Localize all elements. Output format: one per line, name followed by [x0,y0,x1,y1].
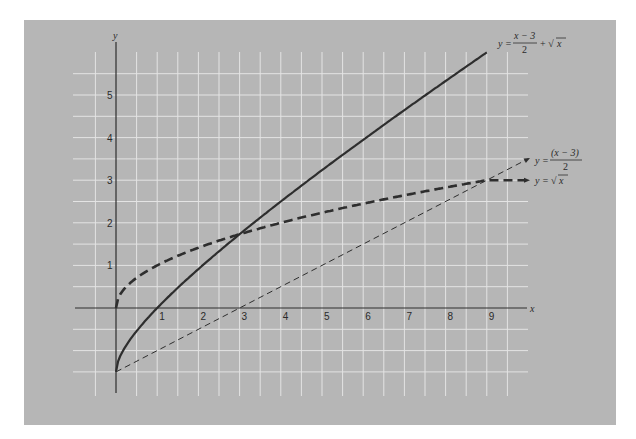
y-tick-label: 3 [107,175,113,186]
x-tick-label: 9 [489,311,495,322]
x-tick-label: 6 [365,311,371,322]
svg-text:x − 3: x − 3 [513,30,535,41]
svg-text:x: x [558,175,564,186]
x-tick-label: 7 [406,311,412,322]
svg-text:2: 2 [563,161,568,172]
x-tick-label: 3 [242,311,248,322]
y-tick-label: 1 [107,260,113,271]
y-tick-label: 2 [107,218,113,229]
svg-text:(x − 3): (x − 3) [551,147,580,159]
arrowhead-icon [524,178,530,183]
svg-text:y =: y = [534,175,549,186]
x-tick-label: 5 [324,311,330,322]
svg-text:x: x [556,38,562,49]
x-tick-label: 4 [283,311,289,322]
grid-lines [73,52,528,396]
y-tick-label: 4 [107,133,113,144]
arrowhead-icon [524,158,530,163]
svg-text:+ √: + √ [540,38,554,49]
x-axis-label: x [529,303,535,314]
label-eq-sum: y = x − 3 2 + √ x [497,30,566,55]
x-tick-label: 8 [448,311,454,322]
chart-canvas: x y 12345678912345 y = x − 3 2 + √ x y =… [0,0,636,439]
svg-text:y =: y = [497,38,512,49]
svg-text:√: √ [551,175,557,186]
x-tick-label: 1 [159,311,165,322]
x-tick-label: 2 [200,311,206,322]
svg-text:y =: y = [534,155,549,166]
label-eq-sqrt: y = √ x [534,175,568,186]
y-axis-label: y [112,30,118,41]
label-eq-line: y = (x − 3) 2 [534,147,582,172]
y-tick-label: 5 [107,90,113,101]
svg-text:2: 2 [522,44,527,55]
